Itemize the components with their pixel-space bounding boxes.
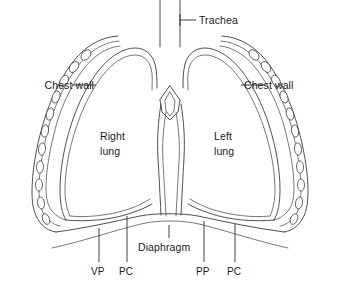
label-right-lung-line1: Right: [100, 130, 125, 143]
trachea-shape: [160, 0, 180, 47]
label-chest-wall-right: Chest wall: [244, 79, 293, 92]
label-left-lung-line1: Left: [214, 130, 232, 143]
label-pp: PP: [196, 266, 210, 279]
label-chest-wall-left: Chest wall: [10, 79, 94, 92]
label-pc-right: PC: [227, 266, 241, 279]
label-trachea: Trachea: [199, 14, 238, 27]
label-pc-left: PC: [119, 266, 133, 279]
leader-trachea: [180, 14, 196, 26]
label-right-lung-line2: lung: [100, 145, 120, 158]
anatomy-diagram: Chest wall Chest wall Trachea Right lung…: [0, 0, 337, 288]
label-diaphragm: Diaphragm: [138, 241, 190, 254]
label-vp: VP: [91, 266, 105, 279]
label-left-lung-line2: lung: [214, 145, 234, 158]
mediastinum-shape: [158, 86, 185, 216]
